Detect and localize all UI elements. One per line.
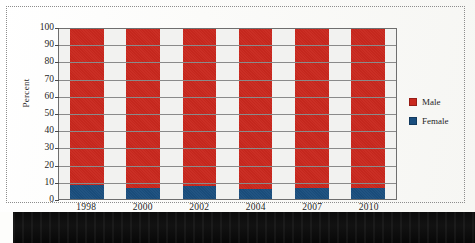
legend-label: Female (422, 116, 449, 126)
y-axis-tick-label: 50 (28, 109, 54, 119)
gridline (59, 62, 396, 63)
y-axis-tick-mark (55, 200, 59, 201)
y-axis-tick-mark (55, 45, 59, 46)
gridline (59, 45, 396, 46)
y-axis-tick-mark (55, 183, 59, 184)
bar-segment-male[interactable] (295, 29, 329, 188)
bar-segment-male[interactable] (351, 29, 385, 188)
bar-segment-female[interactable] (239, 189, 273, 199)
x-axis-tick-label: 2000 (115, 202, 172, 212)
x-axis-tick-label: 2007 (284, 202, 341, 212)
bar-segment-female[interactable] (351, 188, 385, 199)
y-axis-tick-label: 30 (28, 144, 54, 154)
gridline (59, 97, 396, 98)
gridline (59, 166, 396, 167)
bar-segment-female[interactable] (126, 188, 160, 199)
bar-segment-male[interactable] (183, 29, 217, 186)
x-axis-tick-label: 1998 (58, 202, 115, 212)
y-axis-tick-label: 0 (28, 195, 54, 205)
x-axis-tick-label: 2002 (171, 202, 228, 212)
y-axis-tick-label: 90 (28, 40, 54, 50)
legend-item[interactable]: Female (409, 116, 471, 126)
legend-item[interactable]: Male (409, 97, 471, 107)
stacked-bar-chart: Percent 0102030405060708090100 199820002… (0, 0, 475, 212)
y-axis-tick-mark (55, 114, 59, 115)
bar-segment-female[interactable] (183, 186, 217, 199)
plot-area (58, 28, 397, 200)
y-axis-tick-label: 10 (28, 178, 54, 188)
y-axis-tick-label: 20 (28, 161, 54, 171)
bar-segment-male[interactable] (126, 29, 160, 188)
y-axis-tick-mark (55, 28, 59, 29)
y-axis-tick-mark (55, 62, 59, 63)
gridline (59, 80, 396, 81)
y-axis-tick-mark (55, 97, 59, 98)
y-axis-tick-label: 100 (28, 23, 54, 33)
y-axis-tick-labels: 0102030405060708090100 (26, 0, 54, 212)
legend-swatch-icon (409, 98, 417, 106)
y-axis-tick-label: 60 (28, 92, 54, 102)
gridline (59, 114, 396, 115)
bar-segment-female[interactable] (295, 188, 329, 199)
gridline (59, 183, 396, 184)
x-axis-tick-label: 2004 (228, 202, 285, 212)
y-axis-tick-mark (55, 148, 59, 149)
bar-segment-male[interactable] (70, 29, 104, 185)
gridline (59, 131, 396, 132)
bar-segment-female[interactable] (70, 185, 104, 199)
y-axis-tick-label: 80 (28, 58, 54, 68)
x-axis-tick-labels: 199820002002200420072010 (58, 202, 397, 212)
y-axis-tick-label: 40 (28, 126, 54, 136)
figure-page: Percent 0102030405060708090100 199820002… (0, 0, 475, 243)
y-axis-tick-mark (55, 131, 59, 132)
y-axis-tick-mark (55, 80, 59, 81)
gridline (59, 148, 396, 149)
scan-edge-band (13, 212, 475, 243)
legend-swatch-icon (409, 117, 417, 125)
chart-legend: MaleFemale (409, 97, 471, 135)
y-axis-tick-label: 70 (28, 75, 54, 85)
x-axis-tick-label: 2010 (341, 202, 398, 212)
y-axis-tick-mark (55, 166, 59, 167)
legend-label: Male (422, 97, 441, 107)
